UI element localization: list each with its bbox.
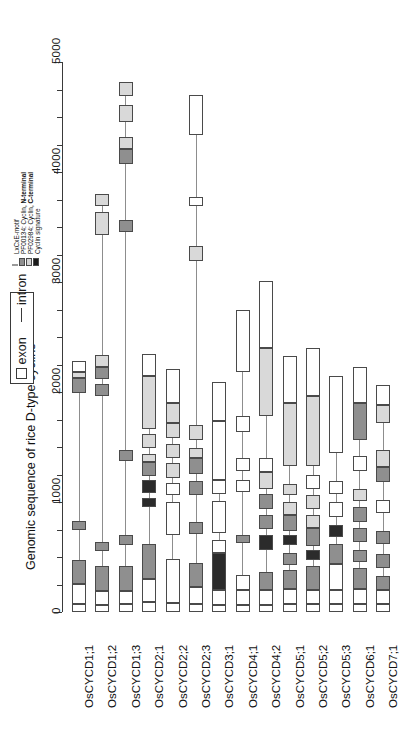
gene-feature-n-terminal xyxy=(353,403,367,440)
gene-feature-exon xyxy=(236,575,250,590)
gene-feature-signature xyxy=(329,525,343,537)
gene-track[interactable] xyxy=(142,354,156,613)
gene-feature-exon xyxy=(353,456,367,471)
gene-feature-exon xyxy=(376,604,390,612)
gene-track[interactable] xyxy=(236,310,250,613)
axis-tick-minor xyxy=(57,447,62,448)
gene-feature-c-terminal xyxy=(376,450,390,467)
legend-mid-gray-swatch xyxy=(19,258,25,266)
gene-track[interactable] xyxy=(189,95,203,612)
gene-label: OsCYCD4;1 xyxy=(247,645,259,708)
gene-feature-n-terminal xyxy=(119,566,133,591)
legend-exon-label: exon xyxy=(15,337,29,364)
gene-feature-n-terminal xyxy=(306,528,320,546)
gene-feature-exon xyxy=(72,584,86,603)
gene-label: OsCYCD1;1 xyxy=(83,645,95,708)
gene-feature-signature xyxy=(142,498,156,507)
gene-feature-n-terminal xyxy=(376,531,390,544)
gene-feature-n-terminal xyxy=(306,566,320,590)
gene-track[interactable] xyxy=(95,194,109,612)
figure-canvas: Genomic sequence of rice D-type cyclins … xyxy=(0,0,408,731)
legend-domain-label: LxCxE-motif xyxy=(13,219,20,254)
axis-tick-minor xyxy=(57,475,62,476)
gene-feature-c-terminal xyxy=(353,489,367,501)
gene-feature-c-terminal xyxy=(95,355,109,367)
gene-feature-n-terminal xyxy=(283,515,297,530)
gene-feature-c-terminal xyxy=(283,484,297,495)
axis-tick-minor xyxy=(57,420,62,421)
gene-feature-n-terminal xyxy=(329,544,343,564)
axis-tick-minor xyxy=(57,310,62,311)
gene-track[interactable] xyxy=(376,385,390,612)
gene-feature-n-terminal xyxy=(72,521,86,530)
legend-domains: LxCxE-motifPF00134: Cyclin, N-terminalPF… xyxy=(6,128,46,268)
gene-feature-exon xyxy=(142,354,156,376)
gene-feature-exon xyxy=(353,589,367,604)
gene-feature-n-terminal xyxy=(283,570,297,589)
gene-feature-n-terminal xyxy=(95,542,109,551)
legend-thin-line-swatch xyxy=(12,264,18,266)
gene-feature-signature xyxy=(142,480,156,493)
gene-feature-n-terminal xyxy=(259,572,273,590)
gene-feature-exon xyxy=(142,602,156,612)
axis-tick-minor xyxy=(57,337,62,338)
gene-feature-c-terminal xyxy=(376,405,390,423)
gene-feature-exon xyxy=(72,604,86,612)
gene-feature-exon xyxy=(376,590,390,604)
gene-feature-n-terminal xyxy=(119,450,133,461)
gene-feature-exon xyxy=(329,481,343,494)
gene-feature-c-terminal xyxy=(189,246,203,261)
gene-track[interactable] xyxy=(166,369,180,612)
gene-feature-n-terminal xyxy=(189,522,203,534)
gene-track[interactable] xyxy=(283,356,297,612)
legend-structure-box: exon intron xyxy=(10,292,34,384)
gene-feature-exon xyxy=(236,605,250,612)
gene-feature-exon xyxy=(95,591,109,605)
gene-label: OsCYCD3;1 xyxy=(223,645,235,708)
gene-feature-exon xyxy=(353,367,367,403)
exon-swatch-icon xyxy=(16,368,27,379)
gene-track[interactable] xyxy=(329,376,343,613)
gene-feature-exon xyxy=(306,475,320,489)
gene-feature-exon xyxy=(236,480,250,492)
gene-feature-c-terminal xyxy=(119,105,133,123)
gene-feature-exon xyxy=(142,579,156,602)
gene-feature-exon xyxy=(329,590,343,604)
gene-feature-exon xyxy=(376,385,390,405)
gene-track[interactable] xyxy=(119,82,133,612)
gene-feature-c-terminal xyxy=(166,444,180,458)
gene-track[interactable] xyxy=(306,348,320,612)
gene-track[interactable] xyxy=(353,367,367,612)
gene-feature-n-terminal xyxy=(142,544,156,579)
gene-feature-n-terminal xyxy=(95,566,109,591)
gene-feature-n-terminal xyxy=(189,563,203,587)
gene-feature-signature xyxy=(212,553,226,590)
legend-domain-label: Cyclin signature xyxy=(34,209,41,254)
axis-tick-minor xyxy=(57,530,62,531)
gene-feature-exon xyxy=(189,604,203,612)
gene-label: OsCYCD7;1 xyxy=(387,645,399,708)
axis-tick-minor xyxy=(57,557,62,558)
gene-track[interactable] xyxy=(212,382,226,612)
gene-feature-exon xyxy=(166,369,180,403)
gene-track[interactable] xyxy=(72,361,86,612)
gene-feature-n-terminal xyxy=(376,554,390,568)
legend-structure-content: exon intron xyxy=(15,274,29,379)
axis-tick-label: 5000 xyxy=(50,38,62,64)
axis-tick-label: 4000 xyxy=(50,148,62,174)
gene-track[interactable] xyxy=(259,281,273,612)
gene-feature-exon xyxy=(212,540,226,552)
gene-feature-exon xyxy=(189,95,203,135)
gene-feature-n-terminal xyxy=(189,458,203,474)
gene-feature-n-terminal xyxy=(119,220,133,232)
gene-feature-exon xyxy=(166,559,180,603)
gene-feature-exon xyxy=(212,605,226,612)
axis-tick-label: 2000 xyxy=(50,368,62,394)
gene-feature-c-terminal xyxy=(306,396,320,465)
y-axis-line xyxy=(62,62,63,612)
gene-label: OsCYCD2;3 xyxy=(200,645,212,708)
axis-tick-minor xyxy=(57,585,62,586)
gene-feature-c-terminal xyxy=(119,137,133,149)
axis-tick-label: 3000 xyxy=(50,258,62,284)
gene-feature-exon xyxy=(329,604,343,612)
